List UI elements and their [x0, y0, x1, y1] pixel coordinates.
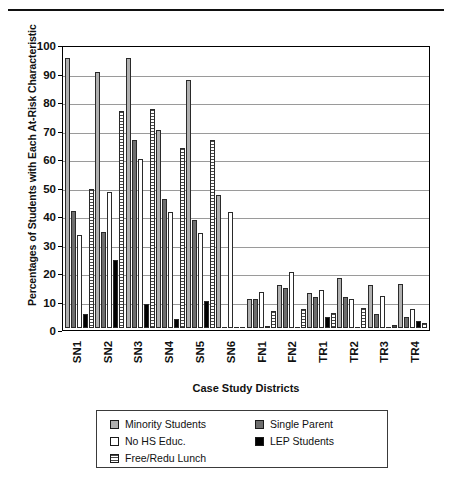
x-tick-sn2: SN2	[93, 334, 124, 380]
y-tick-label: 100	[0, 40, 56, 52]
legend-swatch-icon	[255, 437, 264, 446]
y-tick-mark	[58, 331, 62, 332]
bar-sn1-lep-students	[83, 314, 88, 328]
bar-sn1-minority-students	[65, 58, 70, 329]
bar-fn1-lep-students	[265, 326, 270, 329]
y-tick-label: 10	[0, 297, 56, 309]
bar-tr3-minority-students	[368, 285, 373, 328]
bar-sn6-minority-students	[216, 195, 221, 329]
bar-tr2-lep-students	[355, 327, 360, 328]
bar-sn3-lep-students	[144, 304, 149, 328]
y-tick-mark	[58, 246, 62, 247]
bar-sn1-no-hs-educ	[77, 235, 82, 329]
x-tick-label: TR1	[317, 341, 329, 363]
bar-group-sn1	[65, 49, 95, 329]
x-tick-label: FN1	[255, 341, 267, 363]
bar-sn6-single-parent	[222, 327, 227, 328]
bar-fn2-no-hs-educ	[289, 272, 294, 328]
bar-tr4-minority-students	[398, 284, 403, 328]
bar-fn1-free-redu-lunch	[271, 311, 276, 329]
bar-sn4-lep-students	[174, 319, 179, 328]
bar-sn4-no-hs-educ	[168, 212, 173, 328]
y-tick-label: 90	[0, 69, 56, 81]
x-tick-label: TR2	[347, 341, 359, 363]
y-tick-mark	[58, 75, 62, 76]
x-axis-title: Case Study Districts	[62, 382, 430, 394]
plot-area-wrapper: 0102030405060708090100	[62, 46, 430, 331]
bar-sn3-free-redu-lunch	[150, 109, 155, 328]
bar-fn2-single-parent	[283, 288, 288, 328]
legend-column-right: Single ParentLEP Students	[255, 416, 334, 450]
legend-column-left: Minority StudentsNo HS Educ.Free/Redu Lu…	[110, 416, 206, 467]
chart-legend: Minority StudentsNo HS Educ.Free/Redu Lu…	[96, 410, 388, 468]
y-tick-label: 30	[0, 240, 56, 252]
bar-sn4-minority-students	[156, 130, 161, 329]
bar-tr1-minority-students	[307, 293, 312, 328]
bar-sn6-free-redu-lunch	[240, 327, 245, 328]
bar-sn2-minority-students	[95, 72, 100, 328]
bar-sn2-no-hs-educ	[107, 192, 112, 329]
legend-label: LEP Students	[270, 435, 334, 447]
bar-tr3-single-parent	[374, 314, 379, 328]
bar-tr4-free-redu-lunch	[422, 323, 427, 329]
bar-sn6-lep-students	[234, 327, 239, 328]
legend-item: LEP Students	[255, 433, 334, 449]
y-tick-mark	[58, 46, 62, 47]
legend-swatch-icon	[110, 420, 119, 429]
legend-label: Free/Redu Lunch	[125, 452, 206, 464]
bar-group-sn2	[95, 49, 125, 329]
x-tick-tr4: TR4	[399, 334, 430, 380]
x-tick-tr1: TR1	[307, 334, 338, 380]
x-tick-label: SN1	[71, 341, 83, 363]
x-tick-sn1: SN1	[62, 334, 93, 380]
x-tick-label: TR4	[409, 341, 421, 363]
legend-label: Single Parent	[270, 418, 333, 430]
y-tick-mark	[58, 217, 62, 218]
bar-group-tr1	[306, 49, 336, 329]
x-tick-label: SN6	[225, 341, 237, 363]
page-top-rule	[8, 9, 444, 11]
bar-fn1-single-parent	[253, 299, 258, 329]
x-tick-sn3: SN3	[123, 334, 154, 380]
x-tick-sn4: SN4	[154, 334, 185, 380]
bar-group-fn1	[246, 49, 276, 329]
x-tick-sn5: SN5	[185, 334, 216, 380]
x-tick-label: SN2	[102, 341, 114, 363]
bar-group-sn6	[216, 49, 246, 329]
legend-label: Minority Students	[125, 418, 206, 430]
bar-tr2-minority-students	[337, 278, 342, 329]
bar-group-sn4	[155, 49, 185, 329]
x-tick-tr3: TR3	[369, 334, 400, 380]
bar-tr4-lep-students	[416, 321, 421, 328]
y-tick-label: 50	[0, 183, 56, 195]
bar-fn2-lep-students	[295, 327, 300, 328]
x-axis-tick-labels: SN1SN2SN3SN4SN5SN6FN1FN2TR1TR2TR3TR4	[62, 334, 430, 380]
x-tick-label: SN4	[163, 341, 175, 363]
x-tick-label: FN2	[286, 341, 298, 363]
bar-chart-figure: Percentages of Students with Each At-Ris…	[0, 18, 452, 482]
bar-series-container	[65, 49, 428, 329]
y-tick-mark	[58, 160, 62, 161]
bar-sn5-no-hs-educ	[198, 233, 203, 328]
bar-sn4-free-redu-lunch	[180, 148, 185, 328]
bar-group-sn3	[125, 49, 155, 329]
legend-item: Minority Students	[110, 416, 206, 432]
x-tick-tr2: TR2	[338, 334, 369, 380]
bar-sn2-single-parent	[101, 232, 106, 329]
bar-tr2-single-parent	[343, 297, 348, 329]
bar-sn5-free-redu-lunch	[210, 140, 215, 329]
bar-sn3-no-hs-educ	[138, 159, 143, 328]
x-tick-fn1: FN1	[246, 334, 277, 380]
y-tick-mark	[58, 103, 62, 104]
x-tick-sn6: SN6	[215, 334, 246, 380]
legend-item: Single Parent	[255, 416, 334, 432]
legend-item: No HS Educ.	[110, 433, 206, 449]
x-tick-label: TR3	[378, 341, 390, 363]
bar-sn3-minority-students	[126, 58, 131, 329]
bar-tr1-single-parent	[313, 297, 318, 328]
bar-tr1-no-hs-educ	[319, 290, 324, 329]
bar-tr3-no-hs-educ	[380, 296, 385, 329]
bar-sn6-no-hs-educ	[228, 212, 233, 328]
bar-tr3-free-redu-lunch	[392, 325, 397, 328]
bar-tr3-lep-students	[386, 327, 391, 328]
